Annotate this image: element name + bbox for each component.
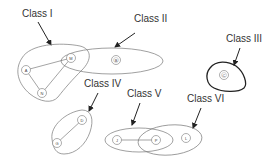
class-vi-arrow — [193, 108, 201, 128]
class-iii-label: Class III — [226, 33, 262, 44]
node-g: G — [53, 139, 62, 148]
class-ii-label: Class II — [134, 13, 167, 24]
svg-text:N: N — [41, 91, 44, 96]
class-i-label: Class I — [22, 8, 53, 19]
class-ii-arrow — [115, 33, 135, 47]
svg-text:J: J — [116, 138, 118, 143]
node-p: P — [152, 136, 161, 145]
svg-text:B: B — [115, 58, 118, 63]
class-vi-label: Class VI — [187, 93, 224, 104]
edge-d-g — [57, 120, 82, 143]
node-m: M — [67, 54, 76, 63]
class-diagram: Class I Class II Class III Class IV Clas… — [0, 0, 276, 162]
svg-text:G: G — [55, 141, 58, 146]
node-b: B — [112, 56, 121, 65]
svg-text:C: C — [223, 73, 226, 78]
node-a: A — [22, 66, 31, 75]
node-d: D — [78, 116, 87, 125]
node-l: L — [182, 134, 191, 143]
svg-text:P: P — [155, 138, 158, 143]
edge-a-m — [26, 58, 71, 70]
class-iii-arrow — [234, 48, 240, 65]
edge-m-n — [42, 58, 71, 93]
node-n: N — [38, 89, 47, 98]
class-v-label: Class V — [127, 88, 162, 99]
svg-text:M: M — [69, 56, 72, 61]
class-i-arrow — [38, 22, 51, 45]
node-c: C — [220, 71, 229, 80]
class-v-arrow — [132, 103, 140, 125]
node-j: J — [113, 136, 122, 145]
class-iv-label: Class IV — [84, 78, 122, 89]
class-iv-arrow — [89, 93, 98, 111]
svg-text:A: A — [25, 68, 28, 73]
svg-text:D: D — [81, 118, 84, 123]
